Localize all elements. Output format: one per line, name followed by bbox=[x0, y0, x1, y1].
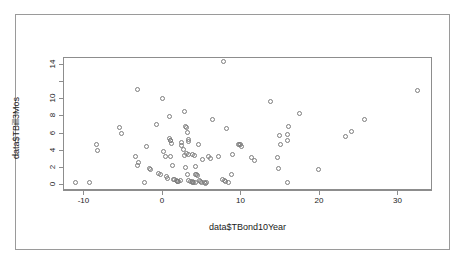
scatter-point bbox=[229, 172, 234, 177]
y-tick-label: 10 bbox=[48, 91, 57, 105]
x-tick-mark bbox=[397, 191, 398, 195]
scatter-point bbox=[285, 180, 290, 185]
x-tick-label: 20 bbox=[314, 196, 323, 205]
y-axis-title: data$TBill3Mos bbox=[11, 78, 21, 178]
y-tick-mark bbox=[59, 167, 63, 168]
scatter-point bbox=[252, 158, 257, 163]
x-tick-label: 30 bbox=[393, 196, 402, 205]
x-axis-line bbox=[63, 190, 432, 191]
y-axis-line bbox=[63, 57, 64, 190]
scatter-point bbox=[95, 148, 100, 153]
y-tick-mark bbox=[59, 98, 63, 99]
y-tick-label: 4 bbox=[48, 143, 57, 157]
x-tick-mark bbox=[162, 191, 163, 195]
scatter-point bbox=[154, 122, 159, 127]
scatter-point bbox=[184, 151, 189, 156]
plot-box-border bbox=[63, 57, 432, 190]
y-tick-mark bbox=[59, 115, 63, 116]
scatter-point bbox=[170, 163, 175, 168]
y-tick-mark bbox=[59, 64, 63, 65]
scatter-plot: -100102030 024681014 data$TBond10Year da… bbox=[0, 0, 465, 264]
x-tick-mark bbox=[83, 191, 84, 195]
scatter-point bbox=[192, 153, 197, 158]
scatter-point bbox=[268, 99, 273, 104]
x-tick-label: -10 bbox=[78, 196, 90, 205]
x-tick-mark bbox=[240, 191, 241, 195]
scatter-point bbox=[239, 144, 244, 149]
scatter-point bbox=[216, 154, 221, 159]
scatter-point bbox=[167, 114, 172, 119]
y-tick-label: 0 bbox=[48, 177, 57, 191]
y-tick-label: 8 bbox=[48, 108, 57, 122]
x-axis-title: data$TBond10Year bbox=[63, 222, 432, 232]
scatter-point bbox=[286, 124, 291, 129]
y-tick-label: 6 bbox=[48, 126, 57, 140]
y-tick-mark bbox=[59, 133, 63, 134]
x-tick-label: 10 bbox=[236, 196, 245, 205]
scatter-point bbox=[226, 180, 231, 185]
y-tick-label: 14 bbox=[48, 57, 57, 71]
scatter-point bbox=[343, 134, 348, 139]
y-tick-mark bbox=[59, 150, 63, 151]
y-tick-label: 2 bbox=[48, 160, 57, 174]
x-tick-mark bbox=[319, 191, 320, 195]
scatter-point bbox=[163, 154, 168, 159]
scatter-point bbox=[208, 156, 213, 161]
scatter-point bbox=[142, 180, 147, 185]
scatter-point bbox=[278, 142, 283, 147]
scatter-point bbox=[193, 164, 198, 169]
scatter-point bbox=[169, 141, 174, 146]
scatter-point bbox=[195, 173, 200, 178]
scatter-point bbox=[210, 117, 215, 122]
scatter-point bbox=[276, 166, 281, 171]
y-tick-mark bbox=[59, 81, 63, 82]
screenshot-root: -100102030 024681014 data$TBond10Year da… bbox=[0, 0, 465, 264]
scatter-point bbox=[196, 142, 201, 147]
scatter-point bbox=[349, 129, 354, 134]
scatter-point bbox=[183, 165, 188, 170]
x-tick-label: 0 bbox=[160, 196, 164, 205]
scatter-point bbox=[285, 132, 290, 137]
scatter-point bbox=[230, 152, 235, 157]
scatter-point bbox=[133, 154, 138, 159]
scatter-point bbox=[73, 180, 78, 185]
y-tick-mark bbox=[59, 184, 63, 185]
